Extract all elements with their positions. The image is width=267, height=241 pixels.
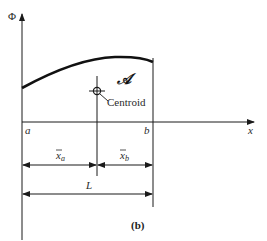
centroid-diagram: Φ x 𝒜 Centroid a b xa xb L (b) <box>0 0 267 241</box>
point-a-label: a <box>25 124 31 136</box>
centroid-label: Centroid <box>107 96 146 108</box>
dim-xb-label: xb <box>119 149 129 163</box>
dim-L-label: L <box>85 179 92 191</box>
x-axis-label: x <box>247 124 253 136</box>
y-axis-label: Φ <box>8 10 16 22</box>
dim-xa-label: xa <box>55 149 65 163</box>
area-label: 𝒜 <box>116 71 137 87</box>
phi-curve <box>22 57 153 88</box>
figure-caption: (b) <box>131 219 145 232</box>
point-b-label: b <box>144 124 150 136</box>
